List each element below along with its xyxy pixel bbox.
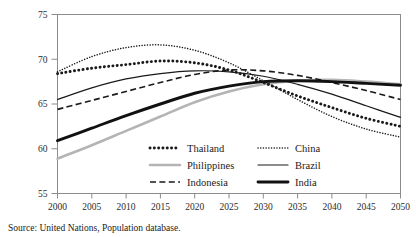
legend-label-indonesia: Indonesia	[187, 177, 228, 188]
x-tick-label: 2010	[117, 202, 136, 212]
y-tick-label: 60	[38, 144, 48, 154]
population-line-chart: 5560657075 20002005201020152020202520302…	[0, 0, 416, 237]
x-tick-label: 2045	[357, 202, 376, 212]
x-tick-label: 2030	[254, 202, 273, 212]
legend-label-philippines: Philippines	[187, 160, 234, 171]
y-tick-label: 65	[38, 99, 48, 109]
x-tick-label: 2000	[48, 202, 67, 212]
legend-label-thailand: Thailand	[187, 143, 225, 154]
x-tick-label: 2005	[82, 202, 101, 212]
y-tick-label: 70	[38, 55, 48, 65]
x-tick-label: 2050	[391, 202, 410, 212]
legend-label-brazil: Brazil	[295, 160, 321, 171]
source-caption: Source: United Nations, Population datab…	[8, 223, 181, 233]
y-tick-label: 75	[38, 10, 48, 20]
legend-label-india: India	[295, 177, 317, 188]
y-tick-label: 55	[38, 189, 48, 199]
x-tick-label: 2035	[288, 202, 307, 212]
x-tick-label: 2015	[151, 202, 170, 212]
chart-container: 5560657075 20002005201020152020202520302…	[0, 0, 416, 237]
x-tick-label: 2020	[185, 202, 204, 212]
x-tick-label: 2025	[220, 202, 239, 212]
legend-label-china: China	[295, 143, 320, 154]
x-tick-label: 2040	[322, 202, 341, 212]
